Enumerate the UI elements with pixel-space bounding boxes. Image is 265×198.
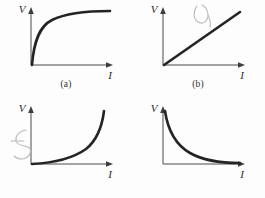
pencil-mark-b-annotation [188, 2, 222, 32]
plot-d: V I [132, 99, 264, 198]
figure-container: V I (a) V I (b) V I (c) [0, 0, 265, 198]
curve-c [32, 111, 104, 164]
x-axis-arrow-c [106, 161, 113, 167]
caption-b: (b) [132, 79, 264, 89]
caption-a: (a) [0, 79, 132, 89]
panel-d: V I (d) [132, 99, 264, 198]
y-axis-label-b: V [151, 3, 159, 15]
y-axis-label-d: V [151, 102, 159, 114]
curve-d [165, 111, 240, 163]
y-axis-label-c: V [19, 102, 27, 114]
x-axis-label-c: I [107, 168, 113, 180]
curve-a [32, 11, 110, 65]
y-axis-label-a: V [19, 3, 27, 15]
y-axis-arrow-a [28, 7, 34, 14]
x-axis-arrow-a [106, 62, 113, 68]
x-axis-label-d: I [239, 168, 245, 180]
x-axis-arrow-b [238, 62, 245, 68]
pencil-mark-c-annotation [6, 126, 40, 164]
y-axis-arrow-c [28, 106, 34, 113]
panel-a: V I (a) [0, 0, 132, 99]
y-axis-arrow-b [160, 7, 166, 14]
